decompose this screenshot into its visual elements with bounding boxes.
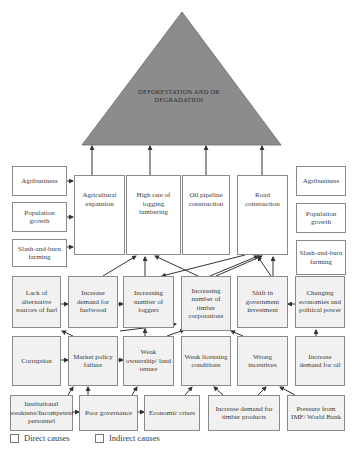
cause-poor-governance: Poor governance (79, 395, 138, 431)
legend-indirect-swatch-icon (95, 434, 104, 443)
legend-direct-swatch-icon (10, 434, 19, 443)
cause-wrong-incentives: Wrong incentives (237, 336, 288, 386)
legend-indirect-label: Indirect causes (109, 433, 160, 443)
direct-cause-logging: High rate of logging lumbering (126, 175, 181, 255)
cause-changing-economies: Changing economies and political power (295, 276, 345, 328)
cause-fuelwood-demand: Increase demand for fuelwood (68, 276, 118, 328)
cause-corruption: Corruption (12, 336, 61, 386)
left-agribusiness: Agribusiness (12, 166, 67, 196)
right-agribusiness: Agribusiness (296, 166, 346, 196)
cause-oil-demand: Increase demand for oil (295, 336, 345, 386)
cause-increasing-loggers: Increasing number of loggers (123, 276, 174, 328)
direct-cause-agricultural-expansion: Agricultural expansion (74, 175, 125, 255)
cause-institutional-weakness: Institutional weakness/Incompetent perso… (10, 395, 73, 431)
cause-lack-alternative-fuel: Lack of alternative sources of fuel (12, 276, 61, 328)
legend-indirect: Indirect causes (95, 433, 160, 443)
cause-timber-products-demand: Increase demand for timber products (208, 395, 280, 431)
cause-weak-land-tenure: Weak ownership/ land tenure (123, 336, 174, 386)
pyramid-shape (82, 12, 281, 145)
right-slash-and-burn: Slash-and-burn farming (296, 240, 346, 275)
cause-economic-crises: Economic crises (144, 395, 200, 431)
right-population-growth: Population growth (296, 203, 346, 233)
direct-cause-road-construction: Road construction (237, 175, 288, 255)
direct-cause-oil-pipeline: Oil pipeline construction (182, 175, 230, 255)
apex-label: DEFORESTATION AND OR DEGRADATION (115, 88, 243, 104)
left-slash-and-burn: Slash-and-burn farming (12, 239, 67, 267)
cause-market-policy-failure: Market policy failure (68, 336, 118, 386)
legend-direct: Direct causes (10, 433, 70, 443)
legend-direct-label: Direct causes (24, 433, 70, 443)
left-population-growth: Population growth (12, 202, 67, 232)
cause-weak-licensing: Weak licensing conditions (181, 336, 231, 386)
cause-imf-world-bank: Pressure from IMF/ World Bank (287, 395, 345, 431)
cause-government-investment: Shift in government investment (237, 276, 288, 328)
cause-timber-corporations: Increasing number of timber corporations (181, 276, 231, 331)
